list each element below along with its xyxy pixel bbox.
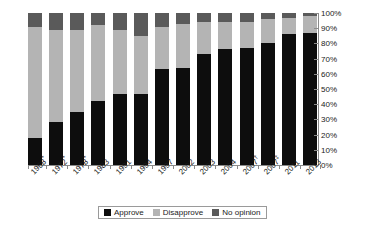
legend-label: Approve	[114, 208, 144, 217]
bar-segment-disapprove[interactable]	[91, 25, 105, 101]
bar-segment-approve[interactable]	[134, 94, 148, 165]
legend-swatch-icon	[212, 209, 219, 216]
bar-column[interactable]	[282, 13, 296, 165]
y-axis-tick	[314, 74, 319, 75]
bar-segment-approve[interactable]	[113, 94, 127, 165]
bar-column[interactable]	[91, 13, 105, 165]
y-axis-tick	[314, 89, 319, 90]
bar-column[interactable]	[218, 13, 232, 165]
plot-area	[28, 13, 317, 165]
bar-segment-no-opinion[interactable]	[176, 13, 190, 24]
bar-column[interactable]	[49, 13, 63, 165]
y-axis-tick	[314, 28, 319, 29]
y-axis-labels: 0%10%20%30%40%50%60%70%80%90%100%	[321, 0, 366, 180]
stacked-bar-chart: 0%10%20%30%40%50%60%70%80%90%100% 1968*1…	[0, 0, 368, 231]
bar-column[interactable]	[134, 13, 148, 165]
bar-segment-no-opinion[interactable]	[197, 13, 211, 22]
x-axis-tick	[237, 165, 238, 169]
x-axis-tick	[194, 165, 195, 169]
bar-column[interactable]	[197, 13, 211, 165]
x-axis-tick	[110, 165, 111, 169]
bar-segment-approve[interactable]	[240, 48, 254, 165]
y-axis-tick-label: 80%	[321, 39, 337, 48]
x-axis-tick	[46, 165, 47, 169]
legend-item[interactable]: Approve	[104, 208, 144, 217]
bars-layer	[28, 13, 317, 165]
legend-label: No opinion	[222, 208, 260, 217]
legend-item[interactable]: No opinion	[212, 208, 260, 217]
x-axis-tick	[67, 165, 68, 169]
legend-label: Disapprove	[163, 208, 203, 217]
y-axis-tick-label: 40%	[321, 100, 337, 109]
x-axis-tick	[215, 165, 216, 169]
bar-column[interactable]	[176, 13, 190, 165]
bar-segment-no-opinion[interactable]	[49, 13, 63, 30]
bar-segment-disapprove[interactable]	[70, 30, 84, 112]
bar-segment-no-opinion[interactable]	[28, 13, 42, 27]
bar-segment-disapprove[interactable]	[49, 30, 63, 123]
y-axis-tick-label: 60%	[321, 70, 337, 79]
y-axis-tick-label: 100%	[321, 9, 341, 18]
y-axis-ticks	[314, 13, 319, 165]
legend-item[interactable]: Disapprove	[153, 208, 203, 217]
bar-segment-approve[interactable]	[155, 69, 169, 165]
y-axis-tick	[314, 104, 319, 105]
y-axis-tick-label: 30%	[321, 115, 337, 124]
bar-column[interactable]	[113, 13, 127, 165]
bar-segment-disapprove[interactable]	[218, 22, 232, 49]
bar-column[interactable]	[28, 13, 42, 165]
bar-column[interactable]	[70, 13, 84, 165]
bar-segment-approve[interactable]	[261, 43, 275, 165]
bar-segment-disapprove[interactable]	[261, 19, 275, 43]
bar-column[interactable]	[261, 13, 275, 165]
bar-segment-disapprove[interactable]	[197, 22, 211, 54]
y-axis-tick-label: 10%	[321, 146, 337, 155]
bar-segment-disapprove[interactable]	[176, 24, 190, 68]
bar-column[interactable]	[240, 13, 254, 165]
bar-segment-approve[interactable]	[176, 68, 190, 165]
bar-segment-disapprove[interactable]	[134, 36, 148, 94]
y-axis-tick	[314, 59, 319, 60]
chart-legend: ApproveDisapproveNo opinion	[98, 206, 267, 219]
x-axis-tick	[88, 165, 89, 169]
bar-segment-approve[interactable]	[91, 101, 105, 165]
bar-segment-no-opinion[interactable]	[70, 13, 84, 30]
y-axis-tick	[314, 150, 319, 151]
bar-segment-disapprove[interactable]	[282, 18, 296, 35]
bar-segment-approve[interactable]	[218, 49, 232, 165]
bar-segment-approve[interactable]	[282, 34, 296, 165]
y-axis-tick-label: 20%	[321, 131, 337, 140]
bar-segment-disapprove[interactable]	[155, 27, 169, 70]
legend-swatch-icon	[104, 209, 111, 216]
y-axis-tick	[314, 13, 319, 14]
bar-segment-no-opinion[interactable]	[113, 13, 127, 30]
bar-segment-disapprove[interactable]	[28, 27, 42, 138]
bar-segment-disapprove[interactable]	[113, 30, 127, 94]
y-axis-tick-label: 50%	[321, 85, 337, 94]
y-axis-tick	[314, 119, 319, 120]
bar-segment-no-opinion[interactable]	[134, 13, 148, 36]
bar-segment-approve[interactable]	[197, 54, 211, 165]
y-axis-tick	[314, 43, 319, 44]
x-axis-tick	[173, 165, 174, 169]
legend-swatch-icon	[153, 209, 160, 216]
x-axis-tick	[300, 165, 301, 169]
y-axis-tick-label: 90%	[321, 24, 337, 33]
bar-segment-no-opinion[interactable]	[240, 13, 254, 22]
y-axis-tick	[314, 135, 319, 136]
bar-column[interactable]	[155, 13, 169, 165]
bar-segment-no-opinion[interactable]	[91, 13, 105, 25]
y-axis-tick-label: 70%	[321, 55, 337, 64]
bar-segment-no-opinion[interactable]	[218, 13, 232, 22]
bar-segment-disapprove[interactable]	[240, 22, 254, 48]
bar-segment-no-opinion[interactable]	[155, 13, 169, 27]
